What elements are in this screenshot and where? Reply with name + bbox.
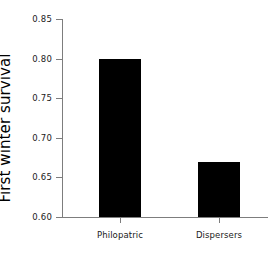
x-axis-line (62, 217, 268, 218)
y-axis-line (62, 19, 63, 218)
y-axis-tick-label: 0.85 (12, 15, 52, 24)
y-axis-tick (56, 138, 62, 139)
y-axis-tick-label: 0.80 (12, 55, 52, 64)
x-axis-tick (120, 218, 121, 223)
y-axis-tick-label: 0.60 (12, 213, 52, 222)
y-axis-tick (56, 59, 62, 60)
bar-philopatric (99, 59, 141, 217)
bar-dispersers (198, 162, 240, 217)
x-axis-category-label: Dispersers (174, 231, 264, 240)
x-axis-tick (219, 218, 220, 223)
y-axis-tick-label: 0.75 (12, 94, 52, 103)
x-axis-category-label: Philopatric (75, 231, 165, 240)
y-axis-tick (56, 19, 62, 20)
bar-chart: First winter survival 0.600.650.700.750.… (0, 0, 276, 256)
y-axis-tick-label: 0.70 (12, 134, 52, 143)
y-axis-tick (56, 217, 62, 218)
y-axis-tick (56, 177, 62, 178)
y-axis-tick-label: 0.65 (12, 173, 52, 182)
y-axis-tick (56, 98, 62, 99)
